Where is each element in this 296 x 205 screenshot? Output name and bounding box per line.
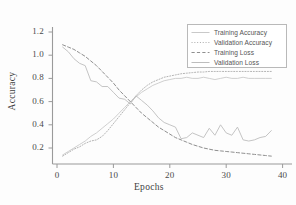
y-tick-label: 1.0 [22, 49, 44, 59]
x-tick-label: 40 [273, 170, 293, 180]
legend-item[interactable]: Training Accuracy [191, 28, 284, 38]
legend-item[interactable]: Training Loss [191, 48, 284, 58]
legend-line-swatch [191, 49, 210, 56]
legend-line-swatch [191, 29, 210, 36]
x-tick-label: 30 [216, 170, 236, 180]
series-line-1 [63, 71, 272, 156]
legend-line-swatch [191, 59, 210, 66]
legend-label: Validation Loss [214, 59, 259, 66]
legend-label: Training Accuracy [214, 29, 267, 36]
x-tick-label: 0 [47, 170, 67, 180]
y-tick-label: 1.2 [22, 26, 44, 36]
y-tick-label: 0.8 [22, 72, 44, 82]
x-tick-label: 10 [103, 170, 123, 180]
legend-item[interactable]: Validation Accuracy [191, 38, 284, 48]
chart-figure: 0.20.40.60.81.01.2 010203040 Epochs Accu… [0, 0, 296, 205]
y-tick-label: 0.2 [22, 142, 44, 152]
x-axis-title: Epochs [134, 182, 164, 192]
legend-label: Validation Accuracy [214, 39, 272, 46]
x-axis-ticks [57, 164, 283, 168]
legend-item[interactable]: Validation Loss [191, 58, 284, 68]
y-axis-ticks [49, 32, 53, 148]
legend-line-swatch [191, 39, 210, 46]
y-tick-label: 0.4 [22, 119, 44, 129]
legend-label: Training Loss [214, 49, 254, 56]
y-axis-title: Accuracy [7, 66, 17, 116]
chart-legend: Training AccuracyValidation AccuracyTrai… [187, 24, 287, 68]
series-line-0 [63, 77, 272, 155]
y-tick-label: 0.6 [22, 96, 44, 106]
x-tick-label: 20 [160, 170, 180, 180]
